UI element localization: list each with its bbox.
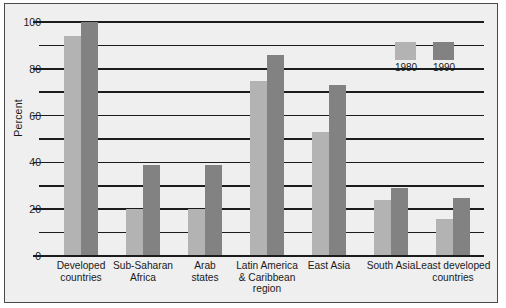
- y-tick-major: [33, 162, 50, 164]
- legend-swatch-1980: [395, 42, 416, 60]
- x-axis-category-labels: DevelopedcountriesSub-SaharanAfricaArabs…: [50, 260, 484, 306]
- y-tick-major: [33, 208, 50, 210]
- category-label-line: countries: [411, 272, 495, 284]
- legend-label-1980: 1980: [389, 62, 423, 73]
- legend-swatch-1990: [433, 42, 454, 60]
- y-tick-minor: [39, 91, 50, 93]
- chart-legend: 19801990: [50, 22, 484, 256]
- y-tick-minor: [39, 45, 50, 47]
- category-label-6: Least developedcountries: [411, 260, 495, 283]
- y-tick-major: [33, 68, 50, 70]
- x-axis-baseline: [50, 255, 484, 257]
- category-label-line: & Caribbean: [225, 272, 309, 284]
- y-tick-major: [33, 115, 50, 117]
- y-tick-major: [33, 255, 50, 257]
- legend-label-1990: 1990: [427, 62, 461, 73]
- y-tick-minor: [39, 232, 50, 234]
- chart-figure: Percent 020406080100 19801990 Developedc…: [4, 3, 498, 303]
- y-tick-major: [33, 21, 50, 23]
- category-label-line: region: [225, 283, 309, 295]
- plot-area: 19801990: [50, 22, 484, 256]
- y-tick-minor: [39, 185, 50, 187]
- category-label-line: Least developed: [411, 260, 495, 272]
- y-tick-minor: [39, 138, 50, 140]
